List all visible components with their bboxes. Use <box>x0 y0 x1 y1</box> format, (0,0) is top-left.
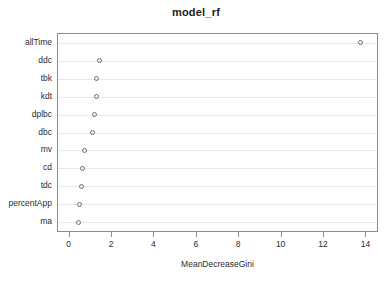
grid-line <box>58 115 377 116</box>
y-axis-tick-label: kdt <box>41 91 52 100</box>
data-point <box>358 40 363 45</box>
grid-line <box>58 97 377 98</box>
x-axis-tick <box>111 232 112 237</box>
y-axis-tick-label: dplbc <box>32 109 52 118</box>
y-axis-tick-label: mv <box>41 145 52 154</box>
y-axis-tick-label: tbk <box>41 73 52 82</box>
x-axis-tick-label: 12 <box>318 239 327 249</box>
x-axis-tick-label: 2 <box>109 239 114 249</box>
grid-line <box>58 43 377 44</box>
data-point <box>79 184 84 189</box>
data-point <box>94 76 99 81</box>
grid-line <box>58 133 377 134</box>
grid-line <box>58 168 377 169</box>
data-point <box>94 94 99 99</box>
grid-line <box>58 150 377 151</box>
y-axis-tick-label: tdc <box>41 181 52 190</box>
x-axis-tick-label: 4 <box>151 239 156 249</box>
x-axis-tick-label: 14 <box>361 239 370 249</box>
data-point <box>76 220 81 225</box>
y-axis-tick-label: ma <box>40 217 52 226</box>
x-axis-tick <box>365 232 366 237</box>
x-axis-tick <box>196 232 197 237</box>
data-point <box>77 202 82 207</box>
x-axis-tick <box>153 232 154 237</box>
variable-importance-dotplot: model_rf allTimeddctbkkdtdplbcdbcmvcdtdc… <box>0 0 392 290</box>
grid-line <box>58 61 377 62</box>
x-axis-tick-label: 10 <box>276 239 285 249</box>
grid-line <box>58 222 377 223</box>
y-axis-label-group: allTimeddctbkkdtdplbcdbcmvcdtdcpercentAp… <box>0 33 52 232</box>
data-point <box>82 148 87 153</box>
y-axis-tick-label: allTime <box>25 37 52 46</box>
grid-line <box>58 79 377 80</box>
data-point <box>80 166 85 171</box>
chart-title: model_rf <box>0 6 392 18</box>
y-axis-tick-label: dbc <box>38 127 52 136</box>
y-axis-tick-label: percentApp <box>9 199 52 208</box>
y-axis-tick-label: cd <box>43 163 52 172</box>
x-axis-title: MeanDecreaseGini <box>57 259 378 269</box>
x-axis-tick-label: 0 <box>66 239 71 249</box>
x-axis-tick-label: 8 <box>236 239 241 249</box>
x-axis-tick <box>281 232 282 237</box>
x-axis-tick <box>323 232 324 237</box>
grid-line <box>58 186 377 187</box>
data-point <box>97 58 102 63</box>
data-point <box>92 112 97 117</box>
plot-panel <box>57 33 378 232</box>
x-axis-tick-label: 6 <box>193 239 198 249</box>
grid-line <box>58 204 377 205</box>
x-axis-tick <box>238 232 239 237</box>
x-axis-tick <box>69 232 70 237</box>
x-axis: 02468101214 <box>57 232 378 258</box>
y-axis-tick-label: ddc <box>38 55 52 64</box>
data-point <box>90 130 95 135</box>
